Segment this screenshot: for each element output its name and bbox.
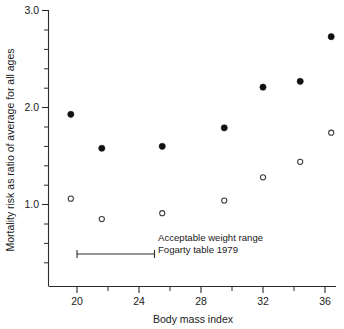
data-series-open-circles: [68, 130, 334, 222]
data-point-open-circles: [298, 159, 303, 164]
y-axis-minor-ticks: [44, 30, 49, 263]
y-tick-label-1: 1.0: [24, 198, 39, 210]
data-point-open-circles: [99, 216, 104, 221]
x-tick-label-24: 24: [133, 295, 145, 307]
chart-svg: Mortality risk as ratio of average for a…: [0, 0, 344, 329]
data-point-open-circles: [260, 175, 265, 180]
scatter-chart-figure: Mortality risk as ratio of average for a…: [0, 0, 344, 329]
y-axis-ticks: [42, 11, 49, 205]
data-point-open-circles: [160, 211, 165, 216]
x-tick-label-32: 32: [257, 295, 269, 307]
data-point-filled-circles: [260, 84, 266, 90]
x-tick-label-28: 28: [195, 295, 207, 307]
data-point-open-circles: [329, 130, 334, 135]
data-series-filled-circles: [68, 34, 335, 152]
y-tick-label-2: 2.0: [24, 101, 39, 113]
data-point-filled-circles: [159, 143, 165, 149]
data-point-filled-circles: [221, 125, 227, 131]
data-point-filled-circles: [328, 34, 334, 40]
data-point-filled-circles: [99, 145, 105, 151]
y-tick-label-3: 3.0: [24, 4, 39, 16]
data-point-open-circles: [222, 198, 227, 203]
x-axis-title: Body mass index: [153, 313, 234, 325]
annotation-line-1: Acceptable weight range: [158, 232, 263, 243]
acceptable-weight-range-annotation: Acceptable weight range Fogarty table 19…: [77, 232, 263, 258]
data-point-filled-circles: [68, 111, 74, 117]
data-point-open-circles: [68, 196, 73, 201]
x-tick-label-36: 36: [319, 295, 331, 307]
y-axis-title: Mortality risk as ratio of average for a…: [4, 48, 16, 251]
x-tick-label-20: 20: [71, 295, 83, 307]
x-axis-ticks: [77, 287, 325, 294]
data-point-filled-circles: [297, 78, 303, 84]
annotation-line-2: Fogarty table 1979: [158, 244, 238, 255]
